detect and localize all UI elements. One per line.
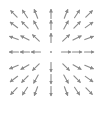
- arrow-grid: [10, 10, 94, 96]
- vector-arrow-icon: [64, 75, 68, 83]
- vector-arrow-icon: [33, 64, 39, 70]
- vector-arrow-icon: [34, 75, 38, 83]
- vector-arrow-icon: [63, 64, 69, 70]
- vector-arrow-icon: [63, 35, 70, 41]
- vector-arrow-icon: [74, 76, 80, 82]
- center-dot: [50, 51, 52, 53]
- vector-arrow-icon: [75, 10, 80, 17]
- vector-arrow-icon: [64, 87, 67, 95]
- vector-arrow-icon: [21, 36, 29, 40]
- vector-arrow-icon: [10, 76, 17, 81]
- vector-arrow-icon: [33, 35, 40, 41]
- vector-arrow-icon: [73, 36, 81, 40]
- vector-arrow-icon: [86, 11, 92, 17]
- vector-arrow-icon: [11, 88, 17, 95]
- vector-arrow-icon: [10, 22, 17, 27]
- vector-arrow-icon: [85, 76, 92, 81]
- vector-field-diagram: [0, 0, 101, 114]
- vector-arrow-icon: [11, 11, 17, 17]
- vector-arrow-icon: [86, 88, 92, 94]
- vector-arrow-icon: [64, 21, 68, 29]
- vector-arrow-icon: [85, 65, 93, 68]
- vector-arrow-icon: [73, 65, 81, 69]
- vector-arrow-icon: [64, 10, 67, 18]
- vector-arrow-icon: [34, 87, 37, 95]
- vector-arrow-icon: [23, 87, 28, 94]
- vector-arrow-icon: [85, 36, 93, 39]
- vector-arrow-icon: [22, 76, 28, 82]
- vector-arrow-icon: [85, 22, 92, 27]
- vector-arrow-icon: [21, 65, 29, 69]
- vector-arrow-icon: [74, 22, 80, 28]
- vector-arrow-icon: [10, 36, 18, 39]
- vector-arrow-icon: [34, 21, 38, 29]
- vector-arrow-icon: [10, 65, 18, 68]
- vector-arrow-icon: [34, 10, 37, 18]
- vector-arrow-icon: [23, 10, 28, 17]
- vector-arrow-icon: [75, 87, 80, 94]
- vector-arrow-icon: [22, 22, 28, 28]
